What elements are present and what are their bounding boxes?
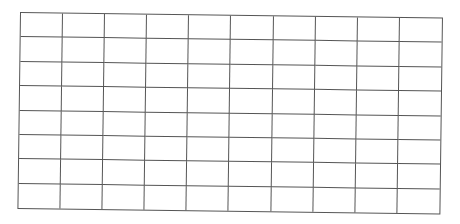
grid-cell	[104, 63, 146, 88]
grid-cell	[272, 89, 314, 114]
grid-cell	[357, 17, 399, 42]
grid-cell	[61, 111, 103, 136]
grid-cell	[103, 160, 145, 185]
grid-cell	[145, 137, 187, 162]
grid-cell	[188, 88, 230, 113]
grid-cell	[398, 164, 440, 189]
grid-cell	[19, 135, 61, 160]
grid-cell	[230, 113, 272, 138]
grid-cell	[146, 112, 188, 137]
grid-cell	[105, 14, 147, 39]
grid-cell	[19, 111, 61, 136]
grid-cell	[231, 40, 273, 65]
grid-cell	[356, 115, 398, 140]
grid-cell	[21, 13, 63, 38]
grid-cell	[399, 67, 441, 92]
grid-cell	[62, 87, 104, 112]
grid-cell	[61, 135, 103, 160]
grid-cell	[357, 42, 399, 67]
grid-cell	[188, 113, 230, 138]
grid-cell	[399, 42, 441, 67]
grid-cell	[104, 87, 146, 112]
grid-cell	[272, 138, 314, 163]
grid-cell	[145, 161, 187, 186]
grid-cell	[147, 39, 189, 64]
grid-cell	[103, 136, 145, 161]
grid-cell	[20, 86, 62, 111]
grid-cell	[313, 163, 355, 188]
grid-cell	[189, 15, 231, 40]
grid-cell	[315, 17, 357, 42]
grid-cell	[271, 187, 313, 212]
grid-cell	[61, 184, 103, 209]
grid-cell	[187, 161, 229, 186]
grid-cell	[315, 41, 357, 66]
grid-cell	[313, 187, 355, 212]
grid-cell	[20, 62, 62, 87]
grid-cell	[19, 159, 61, 184]
grid-cell	[314, 90, 356, 115]
grid-cell	[229, 162, 271, 187]
grid-cell	[398, 115, 440, 140]
grid-cell	[145, 185, 187, 210]
grid-cell	[230, 89, 272, 114]
grid-cell	[356, 164, 398, 189]
canvas	[0, 0, 460, 224]
grid-cell	[104, 112, 146, 137]
grid-cell	[314, 114, 356, 139]
grid-cell	[187, 137, 229, 162]
grid-cell	[314, 139, 356, 164]
grid-cell	[147, 15, 189, 40]
grid-cell	[18, 184, 60, 209]
grid-cell	[357, 66, 399, 91]
grid-cell	[400, 18, 442, 43]
grid-cell	[105, 38, 147, 63]
grid-cell	[229, 186, 271, 211]
grid-cell	[61, 160, 103, 185]
grid-cell	[62, 38, 104, 63]
grid-cell	[397, 189, 439, 214]
grid-cell	[356, 91, 398, 116]
grid-cell	[273, 41, 315, 66]
grid-cell	[188, 64, 230, 89]
grid-cell	[20, 37, 62, 62]
grid-cell	[273, 16, 315, 41]
grid-cell	[273, 65, 315, 90]
grid-cell	[103, 185, 145, 210]
grid-cell	[146, 88, 188, 113]
grid-cell	[230, 65, 272, 90]
grid-cell	[63, 14, 105, 39]
grid-cell	[315, 66, 357, 91]
grid-cell	[230, 138, 272, 163]
grid-cell	[398, 140, 440, 165]
grid-cell	[231, 16, 273, 41]
grid-cell	[187, 186, 229, 211]
grid-cell	[62, 62, 104, 87]
grid-cell	[272, 114, 314, 139]
grid-cell	[189, 40, 231, 65]
grid-cell	[271, 163, 313, 188]
grid-cell	[399, 91, 441, 116]
grid-cell	[356, 139, 398, 164]
grid-cell	[146, 63, 188, 88]
grid-cell	[355, 188, 397, 213]
empty-grid-table	[17, 12, 443, 215]
